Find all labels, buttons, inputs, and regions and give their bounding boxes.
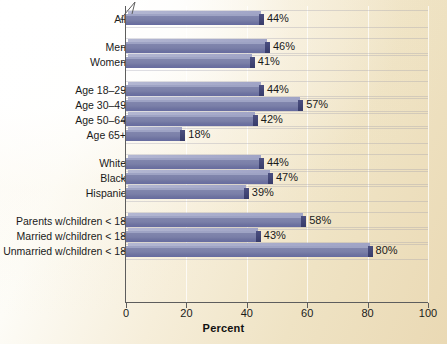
- category-label: Unmarried w/children < 18: [3, 245, 126, 257]
- y-axis-line: [125, 6, 126, 303]
- x-axis-tick-label: 0: [106, 307, 146, 319]
- category-label: White: [99, 157, 126, 169]
- category-label: Age 50–64: [75, 114, 126, 126]
- category-label: Women: [90, 56, 126, 68]
- category-label: Parents w/children < 18: [16, 215, 126, 227]
- category-label: Hispanic: [86, 187, 126, 199]
- x-axis-title: Percent: [0, 322, 447, 334]
- axis-break-arrow: [118, 0, 144, 22]
- category-label: Age 18–29: [75, 84, 126, 96]
- category-label: Men: [106, 41, 126, 53]
- category-axis-labels: AllMenWomenAge 18–29Age 30–49Age 50–64Ag…: [0, 6, 447, 302]
- category-label: Black: [100, 172, 126, 184]
- category-label: Age 65+: [87, 129, 126, 141]
- bar-chart: 44%46%41%44%57%42%18%44%47%39%58%43%80% …: [0, 0, 447, 344]
- x-axis-tick-label: 60: [287, 307, 327, 319]
- x-axis-tick-label: 100: [408, 307, 447, 319]
- x-axis-tick-label: 20: [166, 307, 206, 319]
- x-axis-tick-label: 80: [348, 307, 388, 319]
- x-axis-line: [125, 302, 428, 303]
- category-label: Married w/children < 18: [17, 230, 126, 242]
- category-label: Age 30–49: [75, 99, 126, 111]
- x-axis-tick-label: 40: [227, 307, 267, 319]
